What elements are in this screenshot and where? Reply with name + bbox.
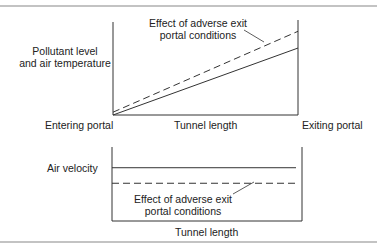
x-end-label: Exiting portal <box>302 119 363 131</box>
upper-series-adverse <box>113 31 298 112</box>
lower-xlabel: Tunnel length <box>175 226 238 238</box>
x-start-label: Entering portal <box>45 119 113 131</box>
upper-xlabel: Tunnel length <box>174 119 237 131</box>
lower-annotation-line1: Effect of adverse exit <box>128 193 238 205</box>
upper-annotation-line2: portal conditions <box>138 29 258 41</box>
lower-ylabel: Air velocity <box>47 162 98 174</box>
upper-series-normal <box>113 48 298 115</box>
lower-annotation: Effect of adverse exit portal conditions <box>128 193 238 217</box>
upper-ylabel-line2: and air temperature <box>16 57 114 69</box>
lower-annotation-line2: portal conditions <box>128 205 238 217</box>
upper-annotation-line1: Effect of adverse exit <box>138 17 258 29</box>
upper-ylabel: Pollutant level and air temperature <box>16 45 114 69</box>
upper-ylabel-line1: Pollutant level <box>16 45 114 57</box>
upper-annotation: Effect of adverse exit portal conditions <box>138 17 258 41</box>
